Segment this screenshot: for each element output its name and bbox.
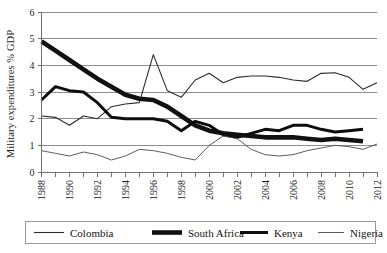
x-tick-label: 2010	[344, 180, 355, 200]
x-tick-label: 2008	[316, 180, 327, 200]
x-tick-label: 1992	[92, 180, 103, 200]
x-tick-label: 2000	[204, 180, 215, 200]
x-tick-label: 1990	[64, 180, 75, 200]
x-tick-label: 2012	[372, 180, 383, 200]
y-axis-ticks: 0123456	[30, 7, 42, 178]
y-tick-label: 6	[30, 7, 35, 18]
x-tick-label: 1994	[120, 180, 131, 200]
y-tick-label: 4	[30, 60, 35, 71]
legend-label-kenya: Kenya	[274, 227, 303, 239]
legend-items: ColombiaSouth AfricaKenyaNigeria	[34, 227, 383, 239]
x-tick-label: 1996	[148, 180, 159, 200]
chart-figure: Military expenditures % GDP 0123456 1988…	[0, 0, 387, 253]
y-tick-label: 1	[30, 140, 35, 151]
line-chart: Military expenditures % GDP 0123456 1988…	[0, 0, 387, 253]
x-tick-label: 1988	[36, 180, 47, 200]
legend-label-colombia: Colombia	[70, 227, 114, 239]
x-tick-label: 2006	[288, 180, 299, 200]
y-axis-title: Military expenditures % GDP	[5, 30, 16, 158]
legend-label-south-africa: South Africa	[188, 227, 244, 239]
x-tick-label: 2004	[260, 180, 271, 200]
chart-legend: ColombiaSouth AfricaKenyaNigeria	[26, 222, 384, 244]
x-tick-label: 2002	[232, 180, 243, 200]
y-tick-label: 0	[30, 167, 35, 178]
x-axis-tick-labels: 1988199019921994199619982000200220042006…	[36, 180, 383, 200]
y-tick-label: 5	[30, 33, 35, 44]
y-tick-label: 2	[30, 113, 35, 124]
y-tick-label: 3	[30, 87, 35, 98]
x-tick-label: 1998	[176, 180, 187, 200]
series-lines	[42, 41, 378, 160]
legend-label-nigeria: Nigeria	[350, 227, 383, 239]
